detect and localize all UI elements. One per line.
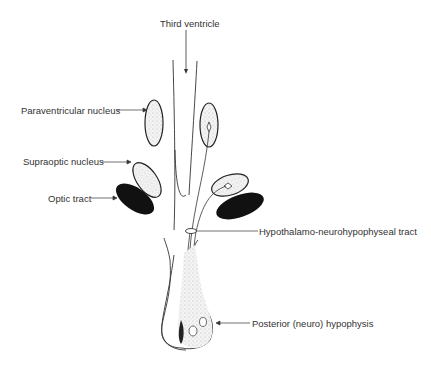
diagram-canvas — [0, 0, 431, 365]
label-third-ventricle: Third ventricle — [160, 19, 220, 29]
label-posterior-hypophysis: Posterior (neuro) hypophysis — [252, 319, 373, 329]
paraventricular-nucleus-left — [145, 100, 163, 146]
label-optic-tract: Optic tract — [48, 194, 91, 204]
label-paraventricular-nucleus: Paraventricular nucleus — [21, 106, 120, 116]
posterior-hypophysis — [162, 238, 213, 350]
third-ventricle — [173, 60, 197, 230]
label-supraoptic-nucleus: Supraoptic nucleus — [23, 157, 104, 167]
tract-cross-section — [186, 229, 197, 234]
label-hypothalamo-neurohypophyseal-tract: Hypothalamo-neurohypophyseal tract — [259, 227, 417, 237]
